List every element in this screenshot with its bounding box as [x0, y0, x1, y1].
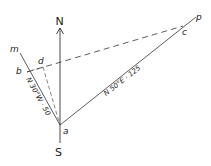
- point-label-p: p: [195, 12, 202, 22]
- point-label-d: d: [38, 56, 44, 66]
- bearing-label-am: N 30°W · 50: [24, 76, 52, 117]
- point-label-a: a: [63, 126, 69, 136]
- south-label: S: [55, 146, 62, 159]
- bearing-label-ap: N 50°E · 125: [102, 64, 142, 98]
- point-label-b: b: [16, 66, 22, 76]
- survey-diagram: N S m b d a c p N 30°W · 50 N 50°E · 125: [0, 0, 211, 166]
- point-label-m: m: [10, 44, 19, 54]
- line-bc: [27, 26, 183, 72]
- north-label: N: [56, 15, 64, 28]
- point-label-c: c: [182, 27, 187, 37]
